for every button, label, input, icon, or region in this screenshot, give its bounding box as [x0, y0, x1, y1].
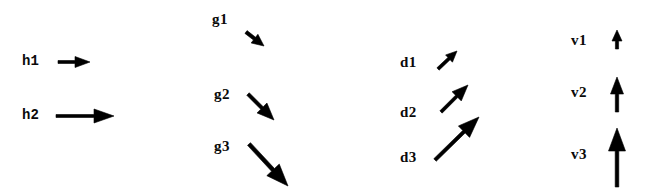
vector-diagram: h1h2g1g2g3d1d2d3v1v2v3	[0, 0, 646, 195]
vector-arrow-v3	[0, 0, 646, 195]
vector-layer: h1h2g1g2g3d1d2d3v1v2v3	[0, 0, 646, 195]
